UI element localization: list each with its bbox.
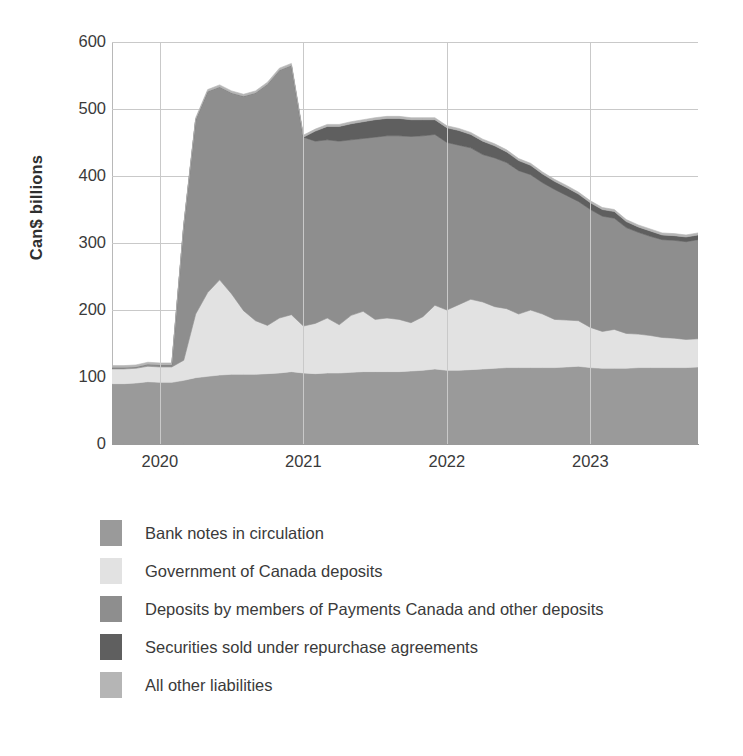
x-tick-mark — [447, 42, 448, 444]
legend-item-label: Government of Canada deposits — [145, 562, 383, 581]
legend-item-label: Bank notes in circulation — [145, 524, 324, 543]
plot-baseline — [112, 444, 699, 445]
legend-item-label: Securities sold under repurchase agreeme… — [145, 638, 478, 657]
y-tick-label: 600 — [50, 33, 106, 50]
legend-item-label: All other liabilities — [145, 676, 272, 695]
legend-swatch-icon — [100, 558, 122, 584]
legend-swatch-icon — [100, 596, 122, 622]
y-axis-title: Can$ billions — [27, 128, 46, 288]
legend-item[interactable]: Securities sold under repurchase agreeme… — [100, 628, 720, 666]
area-series-canvas — [112, 42, 698, 444]
legend-item[interactable]: Deposits by members of Payments Canada a… — [100, 590, 720, 628]
x-tick-mark — [160, 42, 161, 444]
legend-swatch-icon — [100, 672, 122, 698]
x-tick-mark — [303, 42, 304, 444]
y-tick-label: 0 — [50, 435, 106, 452]
y-tick-label: 200 — [50, 301, 106, 318]
x-tick-label: 2020 — [120, 452, 200, 471]
legend-item[interactable]: Bank notes in circulation — [100, 514, 720, 552]
chart-legend: Bank notes in circulationGovernment of C… — [100, 514, 720, 704]
legend-item[interactable]: All other liabilities — [100, 666, 720, 704]
y-tick-label: 500 — [50, 100, 106, 117]
y-axis-tick-labels: 6005004003002001000 — [44, 0, 106, 470]
x-tick-mark — [590, 42, 591, 444]
legend-swatch-icon — [100, 520, 122, 546]
y-tick-label: 300 — [50, 234, 106, 251]
x-tick-label: 2021 — [263, 452, 343, 471]
stacked-area-chart: Can$ billions 6005004003002001000 202020… — [0, 0, 743, 756]
legend-swatch-icon — [100, 634, 122, 660]
x-tick-label: 2022 — [407, 452, 487, 471]
legend-item[interactable]: Government of Canada deposits — [100, 552, 720, 590]
y-tick-label: 100 — [50, 368, 106, 385]
legend-item-label: Deposits by members of Payments Canada a… — [145, 600, 604, 619]
area-band — [112, 366, 698, 444]
y-tick-label: 400 — [50, 167, 106, 184]
x-tick-label: 2023 — [550, 452, 630, 471]
